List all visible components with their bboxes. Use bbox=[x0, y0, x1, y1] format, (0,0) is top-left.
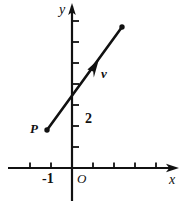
coordinate-diagram: y x O -1 2 P v bbox=[0, 0, 185, 204]
vector-arrowhead bbox=[87, 59, 99, 78]
x-axis-label: x bbox=[169, 173, 175, 187]
x-tick-label-minus-1: -1 bbox=[42, 172, 54, 186]
segment-endpoint-marker bbox=[119, 24, 124, 29]
origin-label: O bbox=[77, 172, 86, 185]
diagram-canvas bbox=[0, 0, 185, 204]
point-p-label: P bbox=[30, 122, 38, 135]
point-p-marker bbox=[44, 127, 49, 132]
y-tick-label-2: 2 bbox=[85, 112, 92, 126]
y-axis-label: y bbox=[59, 3, 65, 17]
vector-v-label: v bbox=[101, 67, 107, 80]
